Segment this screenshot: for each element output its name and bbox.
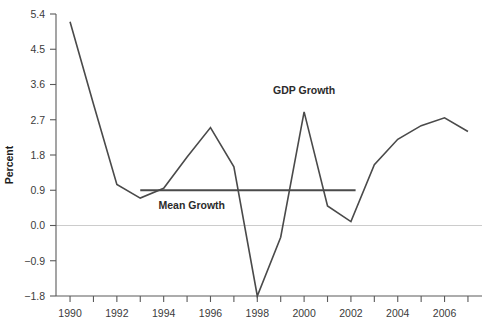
y-tick-label: 0.0 [30, 219, 45, 231]
y-tick-label: −0.9 [24, 255, 45, 267]
y-tick-label: 0.9 [30, 184, 45, 196]
x-tick-label: 1990 [58, 307, 82, 319]
x-tick-label: 1998 [246, 307, 270, 319]
chart-container: −1.8−0.90.00.91.82.73.64.55.4 1990199219… [0, 0, 490, 330]
x-tick-label: 2006 [433, 307, 457, 319]
y-tick-label: 4.5 [30, 43, 45, 55]
y-tick-label: −1.8 [24, 290, 45, 302]
annotation-gdp-growth: GDP Growth [273, 84, 335, 96]
annotation-mean-growth: Mean Growth [159, 199, 226, 211]
gdp-growth-line-chart: −1.8−0.90.00.91.82.73.64.55.4 1990199219… [0, 0, 490, 330]
chart-background [0, 0, 490, 330]
x-tick-label: 2000 [292, 307, 316, 319]
y-tick-label: 2.7 [30, 114, 45, 126]
x-tick-label: 1996 [199, 307, 223, 319]
y-tick-label: 3.6 [30, 78, 45, 90]
x-tick-label: 2002 [339, 307, 363, 319]
x-tick-label: 1994 [152, 307, 176, 319]
y-axis-title: Percent [3, 145, 15, 184]
x-tick-label: 1992 [105, 307, 129, 319]
y-tick-label: 1.8 [30, 149, 45, 161]
x-tick-label: 2004 [386, 307, 410, 319]
y-tick-label: 5.4 [30, 8, 45, 20]
